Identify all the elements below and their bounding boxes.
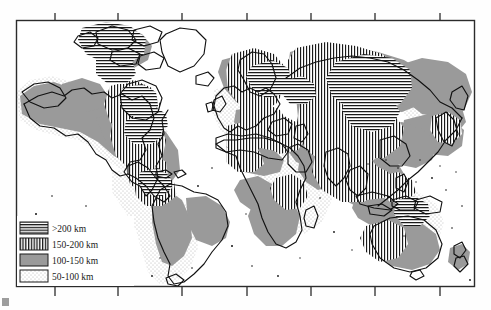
bottom-ticks [55,287,440,297]
scan-artifact-mark [2,298,9,306]
map-legend: >200 km 150-200 km 100-150 km 50-100 km [17,216,134,286]
legend-item-1: 150-200 km [20,238,99,250]
legend-item-3: 50-100 km [20,270,94,282]
top-ticks [55,13,440,21]
world-map-figure: >200 km 150-200 km 100-150 km 50-100 km [0,0,491,310]
legend-label-150-200km: 150-200 km [52,240,99,250]
legend-label-50-100km: 50-100 km [52,272,94,282]
legend-swatch-150-200km [20,238,48,250]
legend-swatch-50-100km [20,270,48,282]
legend-swatch-over-200km [20,222,48,234]
legend-item-2: 100-150 km [20,254,99,266]
legend-swatch-100-150km [20,254,48,266]
legend-item-0: >200 km [20,222,87,234]
legend-label-over-200km: >200 km [52,224,87,234]
legend-label-100-150km: 100-150 km [52,256,99,266]
figure-root: >200 km 150-200 km 100-150 km 50-100 km [0,0,491,310]
